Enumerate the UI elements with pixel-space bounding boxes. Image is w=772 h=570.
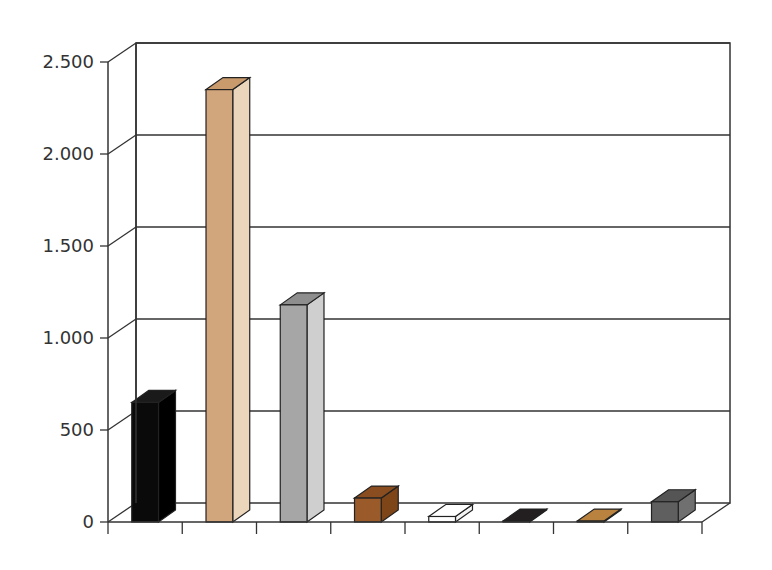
y-axis-labels: 05001.0001.5002.0002.500 [42,51,94,532]
bar [280,293,324,522]
bar [577,509,621,522]
y-tick-label: 1.000 [42,327,94,348]
bar-chart-3d: 05001.0001.5002.0002.500 [0,0,772,570]
bar-side [307,293,324,522]
side-wall-gridline [108,319,136,338]
side-wall-gridline [108,43,136,62]
bar-side [158,390,175,522]
bar-front [429,516,456,522]
side-wall-gridline [108,227,136,246]
bar [503,509,547,522]
bar-side [233,78,250,522]
bar-front [652,502,679,522]
side-wall-gridline [108,135,136,154]
bar-front [206,90,233,522]
y-tick-label: 2.000 [42,143,94,164]
bar-front [280,305,307,522]
y-tick-label: 2.500 [42,51,94,72]
y-tick-label: 0 [83,511,94,532]
bar [132,390,176,522]
y-tick-label: 1.500 [42,235,94,256]
y-tick-label: 500 [60,419,94,440]
bar [429,504,473,522]
bar-front [355,498,382,522]
bar [206,78,250,522]
floor-right-edge [702,503,730,522]
